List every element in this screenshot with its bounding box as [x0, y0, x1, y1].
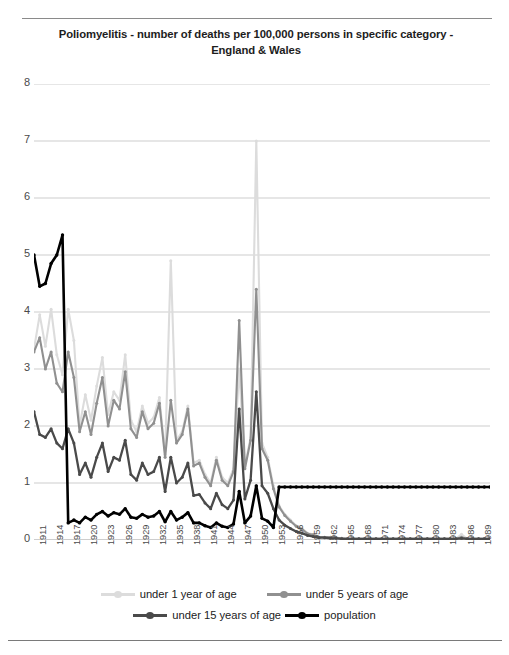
data-point	[78, 473, 81, 476]
data-point	[215, 456, 218, 459]
data-point	[266, 492, 269, 495]
data-point	[101, 376, 104, 379]
data-point	[107, 425, 110, 428]
data-point	[454, 485, 457, 488]
data-point	[38, 336, 41, 339]
data-point	[215, 459, 218, 462]
data-point	[169, 510, 172, 513]
data-point	[278, 519, 281, 522]
data-point	[84, 410, 87, 413]
data-point	[283, 514, 286, 517]
page-title: Poliomyelitis - number of deaths per 100…	[40, 26, 472, 58]
data-point	[158, 456, 161, 459]
y-axis-tick-label: 5	[8, 247, 30, 259]
y-axis-tick-label: 3	[8, 361, 30, 373]
data-point	[158, 510, 161, 513]
data-point	[346, 485, 349, 488]
data-point	[164, 490, 167, 493]
plot-area	[34, 84, 490, 540]
data-point	[380, 485, 383, 488]
data-point	[38, 433, 41, 436]
legend-label-population: population	[324, 609, 376, 621]
data-point	[226, 507, 229, 510]
data-point	[163, 520, 166, 523]
data-point	[312, 485, 315, 488]
data-point	[55, 353, 58, 356]
legend-item-under-15[interactable]: under 15 years of age	[133, 609, 281, 621]
data-point	[95, 402, 98, 405]
data-point	[112, 390, 115, 393]
data-point	[471, 485, 474, 488]
data-point	[61, 233, 64, 236]
data-point	[101, 510, 104, 513]
data-point	[61, 373, 64, 376]
data-point	[391, 485, 394, 488]
data-point	[152, 470, 155, 473]
y-axis-tick-label: 0	[8, 532, 30, 544]
data-point	[460, 537, 463, 540]
x-axis-tick-label: 1974	[397, 525, 407, 545]
legend-item-under-5[interactable]: under 5 years of age	[267, 588, 409, 600]
x-axis-tick-label: 1920	[89, 525, 99, 545]
data-point	[192, 464, 195, 467]
data-point	[186, 405, 189, 408]
data-point	[44, 368, 47, 371]
x-axis-tick-label: 1947	[243, 525, 253, 545]
data-point	[363, 485, 366, 488]
data-point	[72, 376, 75, 379]
x-axis-tick-label: 1911	[38, 525, 48, 545]
data-point	[186, 462, 189, 465]
data-point	[175, 442, 178, 445]
data-point	[164, 456, 167, 459]
data-point	[249, 514, 252, 517]
data-point	[67, 521, 70, 524]
data-point	[448, 485, 451, 488]
data-point	[289, 520, 292, 523]
data-point	[158, 402, 161, 405]
data-point	[266, 519, 269, 522]
x-axis-tick-label: 1935	[175, 525, 185, 545]
x-axis-tick-label: 1962	[329, 525, 339, 545]
data-point	[124, 507, 127, 510]
legend-item-population[interactable]: population	[285, 609, 376, 621]
data-point	[61, 390, 64, 393]
y-axis-tick-label: 8	[8, 76, 30, 88]
data-point	[61, 447, 64, 450]
x-axis-tick-label: 1917	[72, 525, 82, 545]
data-point	[44, 436, 47, 439]
data-point	[295, 485, 298, 488]
data-point	[220, 525, 223, 528]
data-point	[443, 485, 446, 488]
data-point	[243, 497, 246, 500]
data-point	[181, 476, 184, 479]
y-axis-tick-label: 1	[8, 475, 30, 487]
data-point	[95, 513, 98, 516]
legend-item-under-1[interactable]: under 1 year of age	[101, 588, 237, 600]
data-point	[44, 345, 47, 348]
top-divider	[22, 18, 492, 19]
data-point	[192, 494, 195, 497]
data-point	[238, 407, 241, 410]
data-point	[118, 407, 121, 410]
chart-frame: Poliomyelitis - number of deaths per 100…	[0, 0, 509, 655]
data-point	[278, 505, 281, 508]
data-point	[169, 259, 172, 262]
bottom-divider	[8, 640, 502, 641]
x-axis-tick-label: 1914	[55, 525, 65, 545]
data-point	[369, 485, 372, 488]
data-point	[135, 517, 138, 520]
data-point	[50, 308, 53, 311]
data-point	[141, 462, 144, 465]
data-point	[272, 526, 275, 529]
data-point	[477, 485, 480, 488]
data-point	[466, 485, 469, 488]
data-point	[306, 534, 309, 537]
x-axis-tick-label: 1968	[363, 525, 373, 545]
data-point	[204, 476, 207, 479]
data-point	[186, 407, 189, 410]
data-point	[221, 503, 224, 506]
data-point	[334, 485, 337, 488]
data-point	[198, 493, 201, 496]
data-point	[181, 433, 184, 436]
data-point	[55, 382, 58, 385]
